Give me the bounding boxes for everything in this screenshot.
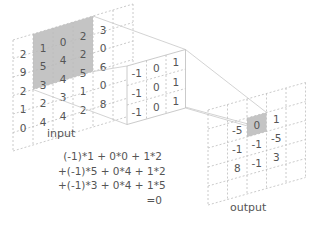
input-cell: 2 <box>80 104 87 116</box>
connector-line <box>93 16 186 50</box>
input-cell: 2 <box>20 48 27 60</box>
kernel-cell: 0 <box>153 81 160 93</box>
equation: (-1)*1 + 0*0 + 1*2 +(-1)*5 + 0*4 + 1*2 +… <box>58 149 162 207</box>
kernel-cell: -1 <box>132 106 142 118</box>
input-cell: 2 <box>40 97 47 109</box>
equation-line-1: (-1)*1 + 0*0 + 1*2 <box>58 149 162 164</box>
input-cell: 2 <box>80 48 87 60</box>
kernel-cell: 0 <box>153 62 160 74</box>
equation-line-2: +(-1)*5 + 0*4 + 1*2 <box>58 164 162 179</box>
input-cell: 5 <box>80 67 87 79</box>
output-matrix: -501-1-1-58-13 <box>208 83 306 206</box>
output-cell: -1 <box>252 157 262 169</box>
output-cell: 3 <box>273 151 280 163</box>
output-cell: 0 <box>253 119 260 131</box>
output-cell: 1 <box>273 113 280 125</box>
output-label: output <box>230 201 267 214</box>
equation-line-3: +(-1)*3 + 0*4 + 1*5 <box>58 178 162 193</box>
input-cell: 3 <box>40 79 47 91</box>
kernel-cell: 0 <box>153 101 160 113</box>
connector-line <box>186 50 267 113</box>
output-cell: 8 <box>234 162 241 174</box>
kernel-cell: -1 <box>132 87 142 99</box>
input-cell: 1 <box>80 85 87 97</box>
input-cell: 4 <box>60 110 67 122</box>
output-cell: -5 <box>232 124 242 136</box>
input-cell: 1 <box>40 42 47 54</box>
kernel-cell: 1 <box>172 56 179 68</box>
input-cell: 0 <box>100 79 107 91</box>
connector-line <box>93 66 127 72</box>
input-cell: 4 <box>40 116 47 128</box>
input-cell: 4 <box>60 73 67 85</box>
input-cell: 0 <box>100 42 107 54</box>
equation-line-4: =0 <box>58 193 162 208</box>
output-cell: -1 <box>232 143 242 155</box>
input-cell: 8 <box>100 98 107 110</box>
input-cell: 0 <box>20 122 27 134</box>
kernel-cell: 1 <box>172 95 179 107</box>
output-cell: -5 <box>271 132 281 144</box>
input-cell: 2 <box>20 85 27 97</box>
output-cell: -1 <box>252 138 262 150</box>
input-cell: 1 <box>20 103 27 115</box>
input-cell: 4 <box>60 54 67 66</box>
kernel-cell: 1 <box>172 76 179 88</box>
input-label: input <box>47 127 76 140</box>
input-cell: 6 <box>100 61 107 73</box>
grid-line <box>208 83 306 111</box>
input-cell: 9 <box>20 66 27 78</box>
input-cell: 0 <box>60 36 67 48</box>
kernel-matrix: -101-101-101 <box>127 50 186 125</box>
input-cell: 5 <box>40 60 47 72</box>
input-cell: 2 <box>80 30 87 42</box>
kernel-cell: -1 <box>132 67 142 79</box>
input-cell: 3 <box>100 24 107 36</box>
